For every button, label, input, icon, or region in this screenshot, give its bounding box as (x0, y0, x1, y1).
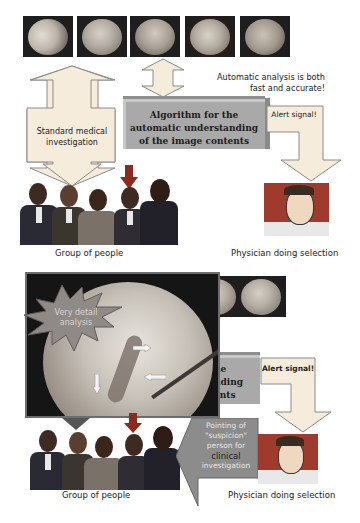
thumbnail-frame-4-selected (185, 16, 235, 57)
person-5-bottom (144, 426, 180, 490)
annotation-text: Automatic analysis is both fast and accu… (215, 72, 325, 94)
group-caption-top: Group of people (55, 248, 123, 258)
person-3 (78, 189, 118, 245)
white-left-arrow (144, 373, 166, 381)
group-caption-bottom: Group of people (62, 490, 130, 500)
alert-signal-label-bottom: Alert signal! (260, 364, 316, 373)
physician-caption-bottom: Physician doing selection (228, 490, 335, 500)
thumbnail-frame-5-bottom (236, 276, 286, 317)
physician-illustration-bottom (258, 434, 318, 484)
algorithm-box: Algorithm for the automatic understandin… (123, 96, 265, 149)
double-vertical-arrow (140, 58, 186, 98)
thumbnail-frame-1 (23, 16, 73, 57)
pointing-suspicion-label: Pointing of "suspicion" person for clini… (194, 421, 258, 471)
standard-investigation-label: Standard medical investigation (27, 126, 117, 148)
physician-caption-top: Physician doing selection (231, 248, 338, 258)
thumbnail-frame-3 (130, 16, 180, 57)
person-5 (140, 179, 178, 245)
physician-illustration-top (264, 183, 329, 236)
white-right-arrow (133, 344, 151, 352)
group-of-people-illustration-top (18, 178, 178, 245)
very-detail-analysis-label: Very detail analysis (46, 308, 106, 328)
alert-signal-label: Alert signal! (266, 110, 322, 119)
thumbnail-frame-2 (77, 16, 127, 57)
thumbnail-frame-5 (240, 16, 290, 57)
person-1-bottom (30, 430, 66, 490)
group-of-people-illustration-bottom (28, 426, 180, 490)
white-down-arrow (93, 374, 101, 394)
